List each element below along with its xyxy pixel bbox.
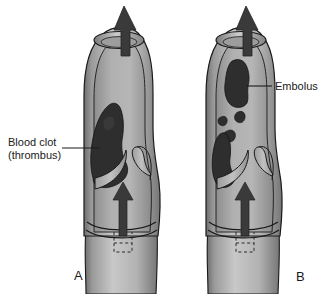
embolus-fragment-2 [218, 116, 227, 125]
label-embolus: Embolus [275, 80, 318, 93]
vein-cut-rim-inner-a [101, 37, 137, 48]
panel-letter-a: A [74, 268, 83, 283]
panel-b-vein [206, 6, 282, 294]
figure-container: Blood clot (thrombus) Embolus A B [0, 0, 332, 294]
panel-a-vein [84, 6, 160, 294]
embolus-fragment-1 [235, 111, 246, 122]
embolus-main [225, 60, 249, 108]
label-blood-clot-thrombus: Blood clot (thrombus) [8, 136, 61, 161]
vein-cut-rim-inner-b [223, 37, 259, 48]
panel-letter-b: B [296, 269, 305, 284]
